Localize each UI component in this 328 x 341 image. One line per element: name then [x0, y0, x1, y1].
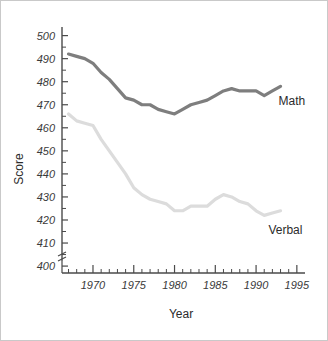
x-axis-ticks — [93, 265, 297, 273]
x-tick-label: 1975 — [122, 279, 147, 291]
x-tick-label: 1995 — [285, 279, 310, 291]
line-chart: 400410420430440450460470480490500 197019… — [1, 1, 328, 341]
y-tick-label: 400 — [37, 260, 56, 272]
y-tick-label: 410 — [37, 237, 56, 249]
y-tick-label: 440 — [37, 168, 56, 180]
x-axis-title: Year — [169, 307, 193, 321]
data-series-group — [69, 54, 281, 215]
y-tick-label: 480 — [37, 76, 56, 88]
y-axis-tick-labels: 400410420430440450460470480490500 — [37, 30, 56, 272]
y-axis-ticks — [62, 36, 68, 266]
series-label-math: Math — [279, 94, 306, 108]
y-tick-label: 500 — [37, 30, 56, 42]
series-line-math — [69, 54, 281, 114]
x-tick-label: 1970 — [81, 279, 106, 291]
y-tick-label: 430 — [37, 191, 56, 203]
series-line-verbal — [69, 114, 281, 215]
y-tick-label: 460 — [37, 122, 56, 134]
y-axis-title: Score — [12, 153, 26, 185]
x-tick-label: 1985 — [203, 279, 228, 291]
y-tick-label: 450 — [37, 145, 56, 157]
x-tick-label: 1990 — [244, 279, 269, 291]
y-tick-label: 470 — [37, 99, 56, 111]
x-tick-label: 1980 — [162, 279, 187, 291]
series-label-verbal: Verbal — [268, 223, 302, 237]
x-axis-tick-labels: 197019751980198519901995 — [81, 279, 310, 291]
y-tick-label: 490 — [37, 53, 56, 65]
y-tick-label: 420 — [37, 214, 56, 226]
chart-figure: 400410420430440450460470480490500 197019… — [0, 0, 328, 341]
series-inline-labels: MathVerbal — [268, 94, 305, 237]
